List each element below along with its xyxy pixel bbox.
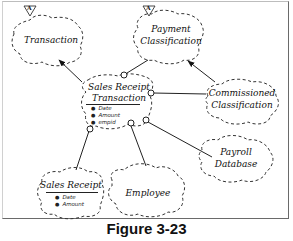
commissioned-inherits-line [188, 61, 215, 82]
class-name-payment-line1: Payment [138, 25, 204, 34]
uses-sales-receipt-line [76, 131, 89, 170]
class-name-payroll-line1: Payroll [202, 148, 270, 157]
class-name-payroll-line2: Database [202, 160, 270, 169]
srt-attr-amount: Amount [91, 113, 120, 119]
class-name-payment-line2: Classification [138, 37, 204, 46]
abstract-label: A [146, 5, 151, 11]
uses-commissioned-line [153, 93, 206, 94]
uses-employee-line [131, 126, 146, 166]
srt-attr-empid: empid [91, 120, 116, 126]
class-name-transaction: Transaction [22, 36, 80, 45]
uses-knob-icon [143, 117, 149, 123]
class-name-employee: Employee [112, 189, 184, 198]
uses-payment-classification-line [127, 60, 148, 73]
sales-receipt-attr-amount: Amount [55, 202, 84, 208]
class-name-sales-receipt: Sales Receipt [40, 181, 102, 190]
class-name-srt-line1: Sales Receipt [86, 83, 152, 92]
class-name-commissioned-line2: Classification [208, 101, 276, 110]
inherits-transaction-line [59, 60, 82, 82]
sales-receipt-attr-date: Date [55, 195, 76, 201]
srt-attr-date: Date [91, 106, 112, 112]
class-name-srt-line2: Transaction [86, 94, 152, 103]
class-name-commissioned-line1: Commissioned [208, 89, 276, 98]
sales-receipt-underline [46, 192, 98, 193]
uses-knob-icon [128, 120, 134, 126]
uses-knob-icon [121, 72, 127, 78]
abstract-label: A [27, 5, 32, 11]
figure-caption: Figure 3-23 [0, 221, 293, 236]
uses-knob-icon [87, 126, 93, 132]
